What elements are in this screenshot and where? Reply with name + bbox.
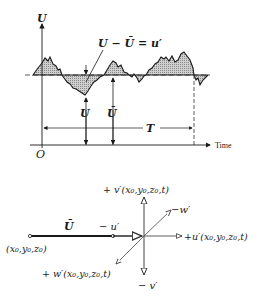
pos-w-arrow: [116, 236, 144, 264]
origin-point: [28, 234, 31, 237]
pos-w-label: + w′(x₀,y₀,z₀,t): [42, 268, 111, 279]
pos-v-label: + v′(x₀,y₀,z₀,t): [103, 184, 169, 195]
time-series-plot: U Time O U − Ū = u′ U Ū T: [25, 12, 232, 161]
mean-label: Ū: [107, 106, 118, 120]
origin-point-label: (x₀,y₀,z₀): [6, 243, 47, 254]
velocity-components-diagram: Ū − u′ (x₀,y₀,z₀) +u′(x₀,y₀,z₀,t) + v′(x…: [6, 184, 248, 291]
period-label: T: [146, 122, 155, 135]
neg-u-label: − u′: [99, 221, 120, 232]
neg-v-label: − v′: [138, 280, 158, 291]
pos-u-label: +u′(x₀,y₀,z₀,t): [184, 231, 248, 242]
y-axis-label: U: [37, 12, 48, 25]
fluctuation-area: [33, 52, 208, 95]
neg-w-arrow: [144, 210, 171, 236]
origin-label: O: [36, 148, 45, 161]
instant-label: U: [80, 107, 91, 120]
neg-w-label: −w′: [171, 204, 191, 215]
x-axis-label: Time: [215, 141, 232, 150]
mean-velocity-label: Ū: [64, 219, 75, 233]
turbulence-diagram: U Time O U − Ū = u′ U Ū T: [0, 0, 277, 298]
fluctuation-label: U − Ū = u′: [98, 36, 162, 50]
